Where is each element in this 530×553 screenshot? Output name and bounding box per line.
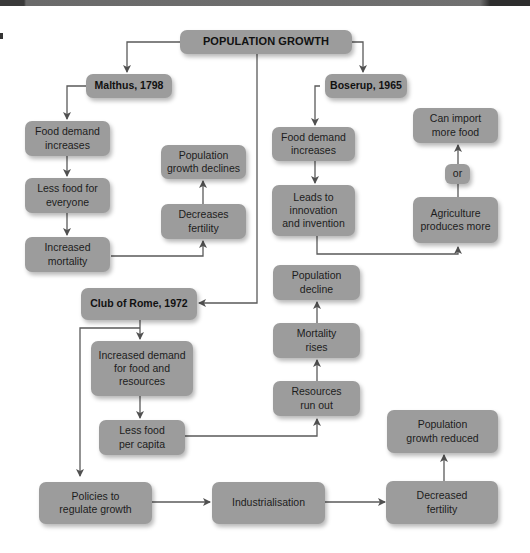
node-malthus-decreases-fertility: Decreases fertility [161, 204, 246, 239]
node-club-population-decline: Population decline [273, 265, 360, 300]
node-boserup-agriculture-produces-more: Agriculture produces more [413, 197, 498, 243]
node-boserup-food-demand-increases: Food demand increases [272, 127, 355, 161]
node-malthus-1798: Malthus, 1798 [86, 74, 172, 98]
page-top-band [0, 0, 530, 6]
node-boserup-can-import-more-food: Can import more food [413, 108, 498, 143]
node-club-less-food-per-capita: Less food per capita [99, 420, 185, 455]
node-club-population-growth-reduced: Population growth reduced [387, 410, 498, 453]
node-malthus-increased-mortality: Increased mortality [25, 237, 110, 272]
node-population-growth: POPULATION GROWTH [180, 30, 352, 54]
node-club-increased-demand: Increased demand for food and resources [91, 341, 193, 396]
node-club-decreased-fertility: Decreased fertility [386, 481, 498, 524]
node-boserup-or: or [445, 164, 470, 184]
node-club-of-rome-1972: Club of Rome, 1972 [81, 288, 197, 320]
node-boserup-1965: Boserup, 1965 [325, 74, 407, 98]
node-malthus-food-demand-increases: Food demand increases [25, 121, 110, 156]
node-boserup-leads-to-innovation: Leads to innovation and invention [272, 185, 355, 236]
node-malthus-population-growth-declines: Population growth declines [161, 145, 246, 179]
node-club-industrialisation: Industrialisation [212, 482, 325, 524]
node-club-resources-run-out: Resources run out [273, 381, 360, 416]
connector-lines [0, 0, 530, 553]
node-club-mortality-rises: Mortality rises [273, 323, 360, 358]
page-edge-mark [0, 33, 3, 39]
node-malthus-less-food-for-everyone: Less food for everyone [25, 178, 110, 213]
node-club-policies-to-regulate-growth: Policies to regulate growth [39, 482, 152, 524]
